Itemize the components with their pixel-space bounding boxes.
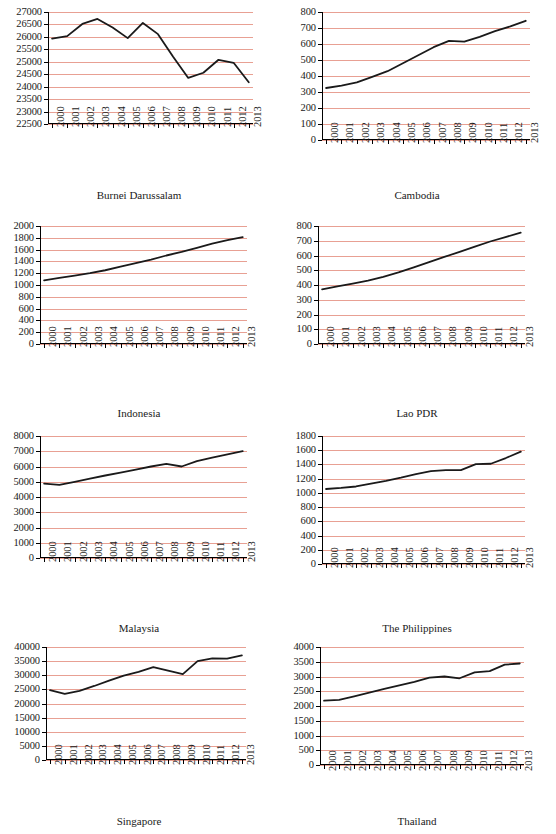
x-tick-mark	[383, 344, 384, 348]
y-tick-label: 0	[307, 339, 312, 350]
x-tick-mark	[109, 760, 110, 764]
y-tick-mark	[36, 344, 40, 345]
x-tick-label: 2007	[157, 744, 168, 765]
y-tick-label: 0	[309, 760, 314, 771]
y-tick-mark	[36, 451, 40, 452]
y-tick-mark	[44, 112, 48, 113]
y-tick-label: 1200	[13, 268, 34, 279]
y-tick-label: 800	[301, 7, 316, 18]
y-tick-mark	[42, 760, 46, 761]
x-tick-mark	[372, 140, 373, 144]
x-tick-mark	[227, 760, 228, 764]
x-tick-mark	[94, 760, 95, 764]
x-tick-label: 2006	[147, 106, 158, 127]
y-tick-label: 40000	[14, 642, 40, 653]
y-tick-label: 4000	[293, 642, 314, 653]
y-tick-mark	[44, 62, 48, 63]
y-tick-label: 2500	[293, 686, 314, 697]
y-tick-label: 1400	[13, 256, 34, 267]
x-tick-label: 2011	[216, 542, 227, 562]
x-tick-mark	[124, 760, 125, 764]
x-tick-mark	[399, 765, 400, 769]
y-tick-label: 500	[299, 745, 314, 756]
x-tick-mark	[505, 344, 506, 348]
x-tick-mark	[510, 140, 511, 144]
y-tick-label: 300	[297, 295, 312, 306]
x-tick-mark	[173, 124, 174, 128]
y-tick-mark	[318, 536, 322, 537]
x-tick-label: 2002	[358, 750, 369, 771]
y-tick-label: 3000	[13, 507, 34, 518]
x-tick-mark	[65, 760, 66, 764]
y-tick-mark	[42, 675, 46, 676]
x-tick-label: 2010	[484, 122, 495, 143]
x-tick-label: 2000	[330, 122, 341, 143]
x-tick-mark	[242, 760, 243, 764]
x-tick-mark	[212, 760, 213, 764]
x-tick-mark	[151, 558, 152, 562]
x-tick-mark	[75, 558, 76, 562]
x-tick-mark	[212, 558, 213, 562]
x-tick-mark	[90, 344, 91, 348]
x-tick-mark	[384, 765, 385, 769]
x-tick-mark	[166, 344, 167, 348]
x-tick-label: 2008	[177, 106, 188, 127]
x-tick-label: 2009	[187, 744, 198, 765]
x-tick-label: 2001	[345, 547, 356, 568]
x-tick-label: 2013	[525, 547, 536, 568]
chart-panel-cambodia: 0100200300400500600700800200020012002200…	[278, 0, 556, 210]
x-tick-mark	[337, 344, 338, 348]
x-tick-mark	[143, 124, 144, 128]
x-tick-label: 2002	[84, 744, 95, 765]
x-tick-label: 2009	[464, 750, 475, 771]
x-tick-mark	[491, 564, 492, 568]
y-tick-label: 400	[301, 71, 316, 82]
y-tick-label: 24500	[16, 69, 42, 80]
y-tick-mark	[318, 507, 322, 508]
y-tick-mark	[42, 732, 46, 733]
x-tick-label: 2012	[509, 750, 520, 771]
y-tick-label: 27000	[16, 7, 42, 18]
y-tick-mark	[44, 37, 48, 38]
y-tick-label: 0	[311, 135, 316, 146]
y-tick-label: 100	[297, 324, 312, 335]
x-tick-label: 2008	[450, 547, 461, 568]
y-tick-label: 26000	[16, 32, 42, 43]
x-tick-label: 2002	[361, 122, 372, 143]
x-tick-mark	[475, 765, 476, 769]
x-tick-label: 2013	[246, 744, 257, 765]
y-tick-mark	[318, 28, 322, 29]
y-tick-mark	[36, 497, 40, 498]
y-tick-mark	[36, 261, 40, 262]
x-tick-label: 2010	[202, 744, 213, 765]
x-tick-label: 2000	[48, 326, 59, 347]
y-tick-mark	[44, 99, 48, 100]
x-tick-label: 2011	[494, 327, 505, 347]
chart-caption: The Philippines	[278, 622, 556, 634]
y-tick-label: 0	[29, 553, 34, 564]
y-tick-mark	[314, 300, 318, 301]
x-tick-mark	[82, 124, 83, 128]
y-tick-mark	[316, 677, 320, 678]
y-tick-mark	[316, 647, 320, 648]
y-tick-label: 20000	[14, 698, 40, 709]
x-tick-mark	[445, 765, 446, 769]
y-tick-label: 25000	[16, 57, 42, 68]
y-tick-mark	[36, 309, 40, 310]
x-tick-label: 2013	[525, 326, 536, 347]
x-tick-mark	[416, 564, 417, 568]
x-tick-mark	[526, 140, 527, 144]
y-tick-mark	[316, 662, 320, 663]
y-tick-label: 200	[19, 327, 34, 338]
y-tick-label: 30000	[14, 670, 40, 681]
x-tick-mark	[188, 124, 189, 128]
x-tick-label: 2003	[94, 541, 105, 562]
x-tick-mark	[153, 760, 154, 764]
y-tick-mark	[318, 550, 322, 551]
x-tick-label: 2008	[170, 541, 181, 562]
x-tick-label: 2001	[345, 122, 356, 143]
x-tick-mark	[121, 558, 122, 562]
x-tick-label: 2005	[125, 541, 136, 562]
x-tick-label: 2013	[530, 122, 541, 143]
y-tick-label: 1800	[295, 431, 316, 442]
